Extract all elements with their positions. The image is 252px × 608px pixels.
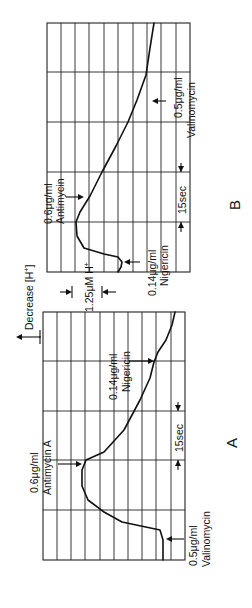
decrease-label: Decrease [H+]	[23, 265, 35, 330]
panel-b-label: B	[226, 200, 243, 210]
panel-a-trace	[82, 312, 175, 560]
panel-b-grid	[47, 23, 190, 272]
a-antimycin-name: Antimycin A	[41, 440, 53, 495]
a-antimycin-arrow-icon	[58, 461, 82, 467]
a-nigericin-dose: 0.14μg/ml	[107, 354, 119, 400]
b-nigericin-dose: 0.14μg/ml	[146, 250, 158, 296]
a-valinomycin-dose: 0.5μg/ml	[187, 526, 199, 566]
b-valinomycin-name: Valinomycin	[185, 82, 197, 138]
b-nigericin-name: Nigericin	[158, 245, 170, 286]
a-time-label: 15sec	[173, 424, 185, 452]
panel-a-grid	[43, 312, 185, 560]
b-nigericin-arrow-icon	[124, 259, 140, 265]
b-time-label: 15sec	[176, 186, 188, 214]
a-antimycin-dose: 0.6μg/ml	[28, 453, 40, 493]
panel-b-frame	[47, 23, 190, 272]
b-antimycin-dose: 0.6μg/ml	[42, 184, 54, 224]
a-nigericin-name: Nigericin	[120, 351, 132, 392]
decrease-arrow-icon	[16, 330, 40, 344]
a-valinomycin-arrow-icon	[166, 536, 184, 542]
scale-label: 1.25μM H+	[83, 262, 95, 312]
figure: Decrease [H+] 1.25μM H+ 0.5μg/ml Valinom…	[0, 0, 252, 608]
panel-b-trace	[76, 23, 154, 272]
a-valinomycin-name: Valinomycin	[200, 511, 212, 567]
b-valinomycin-dose: 0.5μg/ml	[172, 78, 184, 118]
b-valinomycin-arrow-icon	[152, 98, 166, 104]
a-nigericin-arrow-icon	[129, 358, 154, 364]
panel-a-label: A	[223, 438, 240, 448]
b-antimycin-name: Antimycin	[54, 178, 66, 224]
